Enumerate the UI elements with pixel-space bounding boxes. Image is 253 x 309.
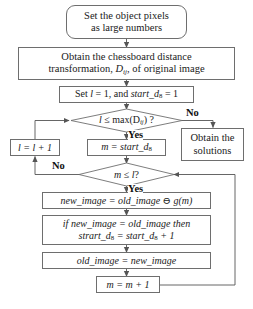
node-obtain-solutions-line1: Obtain the	[190, 132, 234, 144]
node-if-equal-line2: strart_d8 = start_d8 + 1	[79, 230, 175, 242]
if-equal-post: + 1	[158, 230, 175, 241]
dt-line2-post: , of original image	[127, 63, 205, 74]
node-set-object-pixels: Set the object pixels as large numbers	[66, 5, 187, 39]
node-chessboard-distance-transformation: Obtain the chessboard distance transform…	[18, 47, 235, 80]
if-equal-mid: = start_d	[114, 230, 154, 241]
edge-decision-l-no-to-obtain-solutions	[182, 121, 213, 128]
node-init-text: Set l = 1, and start_d8 = 1	[75, 88, 178, 100]
decision-m-post: ?	[135, 169, 139, 180]
flowchart-diagram: Set the object pixels as large numbers O…	[0, 0, 253, 309]
init-var-start: start_d	[131, 88, 159, 99]
dt-line2-var: D	[115, 63, 123, 74]
node-assign-m-text: m = start_d8	[101, 141, 152, 153]
node-increment-m-text: m = m + 1	[107, 279, 150, 291]
assign-m-sub: 8	[148, 146, 151, 153]
node-update-old-text: old_image = new_image	[77, 255, 177, 267]
node-decision-m-le-l: m ≤ l?	[99, 167, 154, 182]
init-pre: Set	[75, 88, 90, 99]
init-post: = 1	[162, 88, 178, 99]
node-distance-transform-line2: transformation, Dij, of original image	[48, 63, 204, 76]
node-obtain-solutions: Obtain the solutions	[181, 128, 244, 161]
node-init-l-and-start-d8: Set l = 1, and start_d8 = 1	[59, 86, 194, 103]
decision-m-mid: ≤	[121, 169, 132, 180]
edge-label-decision-m-yes: Yes	[128, 184, 143, 195]
node-obtain-solutions-line2: solutions	[194, 145, 232, 157]
decision-l-text: l ≤ max(Dij) ?	[99, 114, 154, 126]
edge-increment-l-to-decision-l	[35, 121, 69, 140]
edge-label-decision-l-no: No	[186, 108, 199, 119]
node-increment-m: m = m + 1	[96, 276, 160, 293]
increment-l-expr: = l + 1	[21, 142, 52, 153]
node-increment-l: l = l + 1	[10, 139, 60, 156]
node-increment-l-text: l = l + 1	[18, 142, 52, 154]
node-erosion-text: new_image = old_image ⊖ g(m)	[61, 195, 193, 207]
node-set-object-pixels-line1: Set the object pixels	[84, 10, 169, 22]
node-if-equal-line1: if new_image = old_image then	[63, 218, 190, 230]
node-assign-m-start-d8: m = start_d8	[87, 139, 166, 156]
node-set-object-pixels-line2: as large numbers	[91, 22, 162, 34]
if-equal-pre: strart_d	[79, 230, 111, 241]
node-decision-l-le-max: l ≤ max(Dij) ?	[77, 112, 176, 128]
dt-line2-pre: transformation,	[48, 63, 115, 74]
node-distance-transform-line1: Obtain the chessboard distance	[61, 51, 191, 63]
init-mid: = 1, and	[93, 88, 131, 99]
decision-m-text: m ≤ l?	[114, 169, 139, 181]
node-update-old-image: old_image = new_image	[42, 252, 211, 269]
decision-l-post: ) ?	[144, 114, 154, 125]
edge-label-decision-m-no: No	[52, 161, 65, 172]
assign-m-mid: = start_d	[108, 141, 148, 152]
node-erosion-new-image: new_image = old_image ⊖ g(m)	[42, 192, 211, 209]
decision-l-mid: ≤ max(D	[102, 114, 140, 125]
node-if-new-equals-old: if new_image = old_image then strart_d8 …	[42, 215, 211, 245]
edge-label-decision-l-yes: Yes	[128, 130, 143, 141]
